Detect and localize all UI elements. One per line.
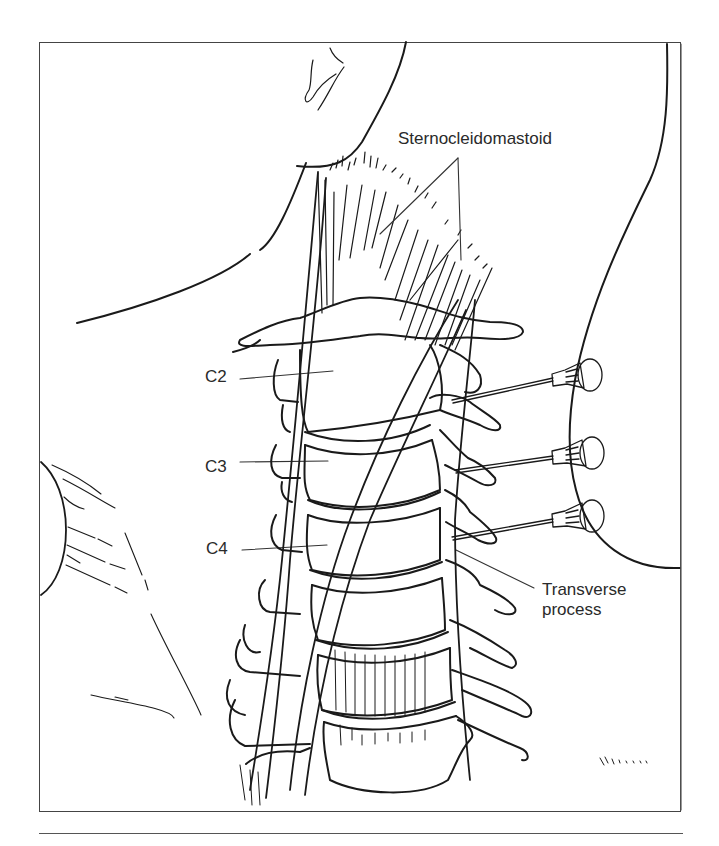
label-c4: C4 [206,539,228,559]
shoulder-contour-right [570,44,680,568]
label-leaders [240,158,534,588]
vertebra-c2 [300,345,442,432]
skin-hatch [600,757,647,765]
label-transverse-process-line1: Transverse [542,580,626,600]
needles [452,359,604,540]
label-c2: C2 [205,367,227,387]
label-sternocleidomastoid: Sternocleidomastoid [398,129,552,149]
shoulder-contour-left [41,462,66,595]
figure-separator-line [39,833,683,834]
jaw-line [77,254,250,323]
transverse-processes [430,345,531,760]
anatomy-illustration [0,0,719,846]
label-transverse-process: Transverse process [542,580,626,619]
shoulder-muscle-lines [52,465,201,718]
ear-drawing [305,48,344,110]
label-c3: C3 [205,457,227,477]
vertebra-c1 [239,297,523,346]
vertebra-c5 [311,578,445,645]
needle-c2 [452,359,602,403]
needle-c3 [455,437,604,473]
label-transverse-process-line2: process [542,600,626,620]
neck-front-contour [260,163,306,250]
vertebra-c4 [307,508,440,575]
sternocleidomastoid-muscle [318,152,492,350]
